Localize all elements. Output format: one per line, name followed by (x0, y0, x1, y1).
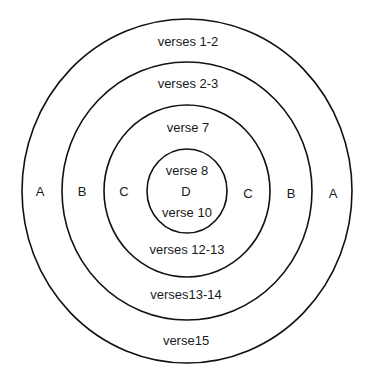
ring-c-letter-right: C (243, 186, 252, 201)
ring-b-top-label: verses 2-3 (158, 76, 219, 91)
ring-d-bottom-label: verse 10 (162, 205, 212, 220)
ring-b-letter-right: B (287, 186, 296, 201)
ring-c-letter-left: C (119, 184, 128, 199)
ring-b-bottom-label: verses13-14 (150, 287, 222, 302)
concentric-diagram: verses 1-2 verses 2-3 verse 7 verse 8 D … (0, 0, 372, 380)
ring-d-top-label: verse 8 (166, 163, 209, 178)
ring-a-top-label: verses 1-2 (158, 34, 219, 49)
ring-a-letter-right: A (329, 186, 338, 201)
ring-c-bottom-label: verses 12-13 (149, 242, 224, 257)
ring-d-letter: D (181, 184, 190, 199)
ring-a-bottom-label: verse15 (163, 333, 209, 348)
ring-b-letter-left: B (78, 184, 87, 199)
ring-a-letter-left: A (36, 184, 45, 199)
ring-c-top-label: verse 7 (167, 120, 210, 135)
